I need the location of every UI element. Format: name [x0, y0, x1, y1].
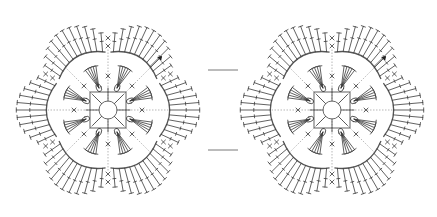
motif-right — [240, 26, 423, 195]
petal-arc — [59, 141, 106, 168]
crochet-chart — [0, 0, 437, 217]
petal-arc — [59, 52, 106, 79]
petal-arc — [110, 52, 157, 79]
petal-arc — [334, 52, 381, 79]
motifs — [16, 26, 423, 195]
petal-arc — [283, 52, 330, 79]
petal-arc — [283, 141, 330, 168]
petal-arc — [110, 141, 157, 168]
motif-left — [16, 26, 199, 195]
motif-join-lines — [208, 70, 238, 150]
petal-arc — [334, 141, 381, 168]
